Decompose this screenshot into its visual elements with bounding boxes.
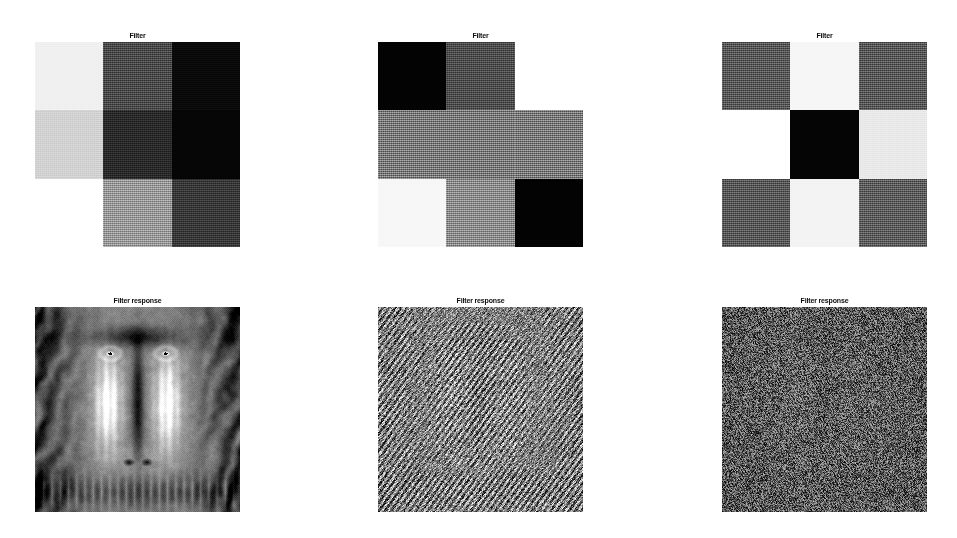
kernel-cell-filter-1-r1c2 xyxy=(172,110,240,178)
kernel-cell-filter-3-r0c1 xyxy=(790,42,858,110)
panel-title-response-3: Filter response xyxy=(722,296,927,305)
kernel-grid-filter-2 xyxy=(378,42,583,247)
kernel-cell-filter-1-r0c1 xyxy=(103,42,171,110)
figure-canvas: FilterFilterFilterFilter responseFilter … xyxy=(0,0,957,538)
panel-body-filter-3 xyxy=(722,42,927,247)
kernel-cell-filter-1-r2c2 xyxy=(172,179,240,247)
panel-title-filter-3: Filter xyxy=(722,31,927,40)
kernel-cell-filter-1-r0c2 xyxy=(172,42,240,110)
panel-title-response-1: Filter response xyxy=(35,296,240,305)
kernel-cell-filter-3-r0c2 xyxy=(859,42,927,110)
kernel-cell-filter-1-r2c0 xyxy=(35,179,103,247)
kernel-cell-filter-1-r1c1 xyxy=(103,110,171,178)
panel-body-filter-1 xyxy=(35,42,240,247)
panel-body-response-2 xyxy=(378,307,583,512)
response-canvas-response-3 xyxy=(722,307,927,512)
kernel-cell-filter-1-r0c0 xyxy=(35,42,103,110)
panel-title-filter-2: Filter xyxy=(378,31,583,40)
kernel-cell-filter-2-r0c1 xyxy=(446,42,514,110)
panel-filter-1: Filter xyxy=(35,31,240,247)
response-image-response-1 xyxy=(35,307,240,512)
panel-response-3: Filter response xyxy=(722,296,927,512)
kernel-cell-filter-2-r1c2 xyxy=(515,110,583,178)
panel-body-response-3 xyxy=(722,307,927,512)
panel-filter-2: Filter xyxy=(378,31,583,247)
panel-body-filter-2 xyxy=(378,42,583,247)
kernel-cell-filter-1-r1c0 xyxy=(35,110,103,178)
kernel-cell-filter-2-r2c1 xyxy=(446,179,514,247)
kernel-grid-filter-1 xyxy=(35,42,240,247)
panel-response-2: Filter response xyxy=(378,296,583,512)
kernel-cell-filter-2-r0c2 xyxy=(515,42,583,110)
kernel-cell-filter-2-r2c2 xyxy=(515,179,583,247)
panel-title-response-2: Filter response xyxy=(378,296,583,305)
panel-response-1: Filter response xyxy=(35,296,240,512)
kernel-cell-filter-2-r1c1 xyxy=(446,110,514,178)
kernel-cell-filter-3-r1c1 xyxy=(790,110,858,178)
panel-filter-3: Filter xyxy=(722,31,927,247)
kernel-cell-filter-3-r2c2 xyxy=(859,179,927,247)
kernel-cell-filter-3-r0c0 xyxy=(722,42,790,110)
panel-title-filter-1: Filter xyxy=(35,31,240,40)
kernel-cell-filter-3-r2c0 xyxy=(722,179,790,247)
kernel-cell-filter-3-r1c0 xyxy=(722,110,790,178)
panel-body-response-1 xyxy=(35,307,240,512)
kernel-cell-filter-3-r1c2 xyxy=(859,110,927,178)
kernel-cell-filter-2-r2c0 xyxy=(378,179,446,247)
kernel-cell-filter-3-r2c1 xyxy=(790,179,858,247)
kernel-grid-filter-3 xyxy=(722,42,927,247)
kernel-cell-filter-1-r2c1 xyxy=(103,179,171,247)
response-image-response-2 xyxy=(378,307,583,512)
response-image-response-3 xyxy=(722,307,927,512)
response-canvas-response-2 xyxy=(378,307,583,512)
kernel-cell-filter-2-r0c0 xyxy=(378,42,446,110)
kernel-cell-filter-2-r1c0 xyxy=(378,110,446,178)
response-canvas-response-1 xyxy=(35,307,240,512)
